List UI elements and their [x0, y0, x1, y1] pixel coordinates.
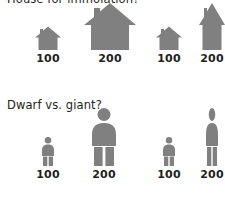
house-icon [199, 0, 225, 50]
figure-cell: 100 [22, 137, 74, 180]
value-label: 200 [92, 169, 116, 180]
figure-row: 100 200 [22, 12, 146, 64]
figure-row: 100 200 [22, 122, 134, 180]
figure-cell: 200 [192, 0, 225, 64]
panel-house-stretched: 100 200 [146, 12, 225, 64]
figure-cell: 200 [74, 0, 146, 64]
house-icon [156, 24, 182, 50]
value-label: 200 [200, 53, 224, 64]
house-icon [35, 24, 61, 50]
value-label: 100 [157, 169, 181, 180]
value-label: 100 [36, 169, 60, 180]
figure-cell: 200 [74, 108, 134, 180]
figure-row: 100 200 [146, 12, 225, 64]
person-icon [205, 108, 219, 166]
house-icon [84, 0, 136, 50]
figure-cell: 100 [22, 24, 74, 64]
panel-person-proportional: 100 200 [22, 122, 134, 180]
figure-cell: 100 [146, 137, 192, 180]
panel-house-proportional: 100 200 [22, 12, 146, 64]
person-icon [41, 137, 55, 166]
panel-person-stretched: 100 200 [146, 122, 225, 180]
person-icon [90, 108, 118, 166]
figure-cell: 200 [192, 108, 225, 180]
figure-row: 100 200 [146, 122, 225, 180]
value-label: 200 [200, 169, 224, 180]
figure-cell: 100 [146, 24, 192, 64]
person-icon [162, 137, 176, 166]
value-label: 100 [157, 53, 181, 64]
value-label: 100 [36, 53, 60, 64]
value-label: 200 [98, 53, 122, 64]
